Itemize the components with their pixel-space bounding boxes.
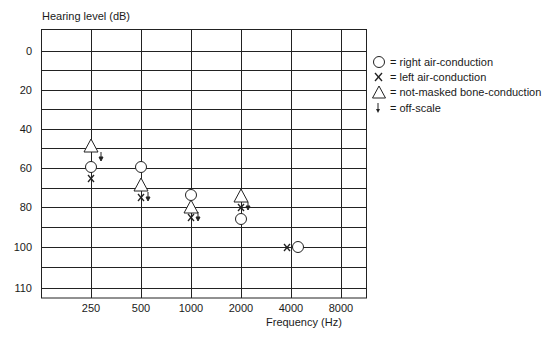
circle-icon	[372, 55, 388, 69]
triangle-marker-500	[134, 178, 148, 191]
legend-label: = not-masked bone-conduction	[390, 86, 541, 98]
circle-marker-2000	[236, 214, 247, 225]
legend-label: = left air-conduction	[390, 71, 486, 83]
legend-item-triangle: = not-masked bone-conduction	[372, 85, 541, 99]
legend-item-x: = left air-conduction	[372, 70, 486, 84]
off-scale-arrow-icon	[246, 202, 250, 210]
legend-item-circle: = right air-conduction	[372, 55, 493, 69]
triangle-marker-2000	[234, 189, 248, 202]
triangle-marker-1000	[184, 200, 198, 213]
circle-marker-500	[136, 162, 147, 173]
circle-marker-4000	[293, 242, 304, 253]
circle-marker-1000	[186, 190, 197, 201]
arrow-down-icon	[372, 101, 388, 115]
legend-label: = right air-conduction	[390, 56, 493, 68]
triangle-marker-250	[84, 139, 98, 152]
off-scale-arrow-icon	[146, 192, 150, 201]
legend-item-arrow: = off-scale	[372, 101, 441, 115]
x-icon	[372, 70, 388, 84]
off-scale-arrow-icon	[99, 152, 103, 161]
triangle-icon	[372, 85, 388, 99]
audiogram-plot	[0, 0, 556, 337]
circle-marker-250	[86, 162, 97, 173]
legend-label: = off-scale	[390, 102, 441, 114]
